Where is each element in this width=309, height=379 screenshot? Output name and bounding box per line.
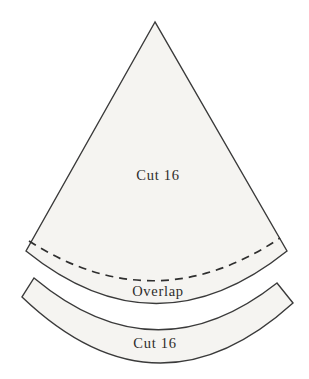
pattern-diagram: Cut 16 Overlap Cut 16 xyxy=(0,0,309,379)
pattern-svg: Cut 16 Overlap Cut 16 xyxy=(0,0,309,379)
band-label: Cut 16 xyxy=(133,335,176,351)
wedge-label: Cut 16 xyxy=(136,167,179,183)
wedge-piece xyxy=(26,22,287,304)
overlap-label: Overlap xyxy=(132,283,184,299)
